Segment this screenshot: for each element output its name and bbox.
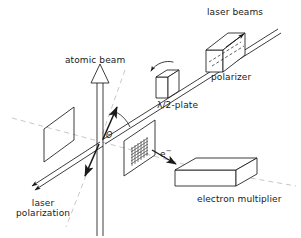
label-electron-charge: − [166,147,172,155]
label-half-wave-plate: λ/2-plate [157,100,198,110]
rotation-arrow [151,61,173,71]
label-polarizer: polarizer [211,72,251,82]
label-angle-theta: Θ [106,132,112,141]
label-laser-polarization: laser polarization [16,198,70,218]
atomic-beam [97,80,103,236]
detector-panel [124,120,155,176]
label-laser-polarization-line1: laser [16,198,70,208]
label-laser-polarization-line2: polarization [16,208,70,218]
figure-canvas: laser beams polarizer λ/2-plate atomic b… [0,0,301,238]
label-electron-multiplier: electron multiplier [197,194,281,204]
electron-multiplier-box [175,158,257,186]
angle-arc [116,112,130,127]
left-panel [44,107,74,162]
polarizer-box [206,33,245,72]
atomic-beam-arrowhead [91,64,109,83]
laser-polarization-arrow [85,107,117,176]
label-electron: e− [160,148,172,159]
label-laser-beams: laser beams [207,7,263,17]
label-atomic-beam: atomic beam [65,55,125,65]
